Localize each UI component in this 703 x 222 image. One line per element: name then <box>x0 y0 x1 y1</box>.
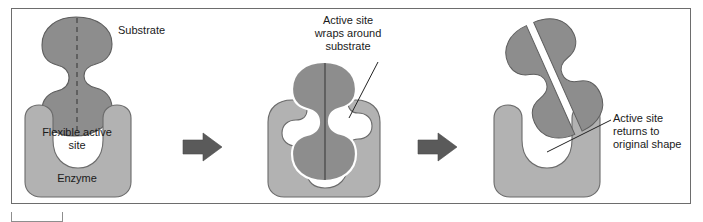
label-flexible-active-site: Flexible active site <box>31 126 123 152</box>
callout-active-site-returns-to-original-shape: Active site returns to original shape <box>613 112 701 151</box>
label-substrate: Substrate <box>118 24 165 37</box>
panel-3-group <box>494 9 611 197</box>
label-enzyme: Enzyme <box>31 172 123 185</box>
enzyme-induced-fit-figure: Substrate Flexible active site Enzyme Ac… <box>0 0 703 222</box>
panel-2-group <box>268 62 457 197</box>
process-arrow-1 <box>183 133 222 161</box>
panel-1-group <box>25 17 222 197</box>
arrow-right-icon <box>183 133 222 161</box>
arrow-right-icon-2 <box>418 133 457 161</box>
panel-2-substrate-body-shape <box>292 62 356 181</box>
panel-2-substrate <box>292 62 356 181</box>
process-arrow-2 <box>418 133 457 161</box>
callout-active-site-wraps-around-substrate: Active site wraps around substrate <box>300 14 396 53</box>
